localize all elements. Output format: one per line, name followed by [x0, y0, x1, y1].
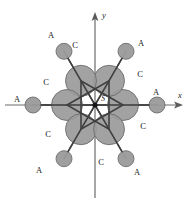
a-label-northwest: A — [48, 30, 55, 40]
a-label-northeast: A — [138, 38, 145, 48]
c-label-southwest: C — [45, 129, 51, 139]
a-east-atom — [149, 97, 165, 113]
a-southeast-atom — [118, 151, 134, 167]
crystal-structure-diagram: C C C C C C A A A A A A y x S — [0, 0, 190, 205]
c-label-northwest: C — [72, 40, 78, 50]
a-southwest-atom — [56, 151, 72, 167]
a-label-west: A — [14, 94, 21, 104]
origin-label: S — [101, 94, 105, 103]
a-label-east: A — [153, 87, 160, 97]
c-label-southeast: C — [98, 157, 104, 167]
y-axis-label: y — [101, 10, 106, 20]
center-of-symmetry-dot — [92, 102, 97, 107]
c-label-northeast: C — [137, 69, 143, 79]
a-northeast-atom — [118, 43, 134, 59]
c-label-west: C — [43, 77, 49, 87]
a-northwest-atom — [56, 43, 72, 59]
a-label-southeast: A — [134, 167, 141, 177]
a-label-southwest: A — [36, 165, 43, 175]
c-label-east: C — [140, 121, 146, 131]
x-axis-label: x — [177, 90, 182, 100]
a-west-atom — [25, 97, 41, 113]
